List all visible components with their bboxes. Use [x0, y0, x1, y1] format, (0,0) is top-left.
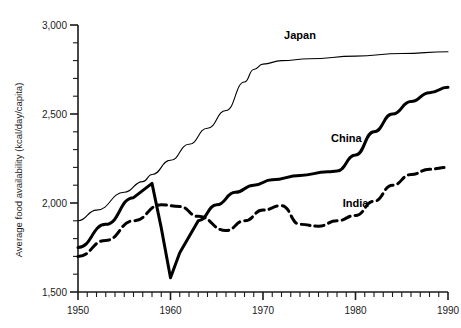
x-tick-label: 1960 — [159, 305, 182, 316]
tick-labels-group: 1,5002,0002,5003,00019501960197019801990 — [42, 20, 460, 317]
series-label-china: China — [331, 132, 362, 144]
x-tick-label: 1950 — [67, 305, 90, 316]
y-tick-label: 2,000 — [42, 198, 67, 209]
series-label-india: India — [343, 197, 370, 209]
series-line-china — [78, 87, 448, 277]
x-tick-label: 1970 — [252, 305, 275, 316]
series-label-japan: Japan — [284, 29, 316, 41]
x-tick-label: 1980 — [344, 305, 367, 316]
y-tick-label: 1,500 — [42, 287, 67, 298]
y-tick-label: 3,000 — [42, 20, 67, 31]
food-availability-chart: 1,5002,0002,5003,00019501960197019801990… — [0, 0, 461, 328]
series-line-japan — [78, 52, 448, 221]
y-tick-label: 2,500 — [42, 109, 67, 120]
x-tick-label: 1990 — [437, 305, 460, 316]
series-group — [78, 52, 448, 278]
series-line-india — [78, 167, 448, 256]
chart-canvas: 1,5002,0002,5003,00019501960197019801990… — [0, 0, 461, 328]
y-axis-title: Average food availability (kcal/day/capi… — [13, 83, 24, 258]
